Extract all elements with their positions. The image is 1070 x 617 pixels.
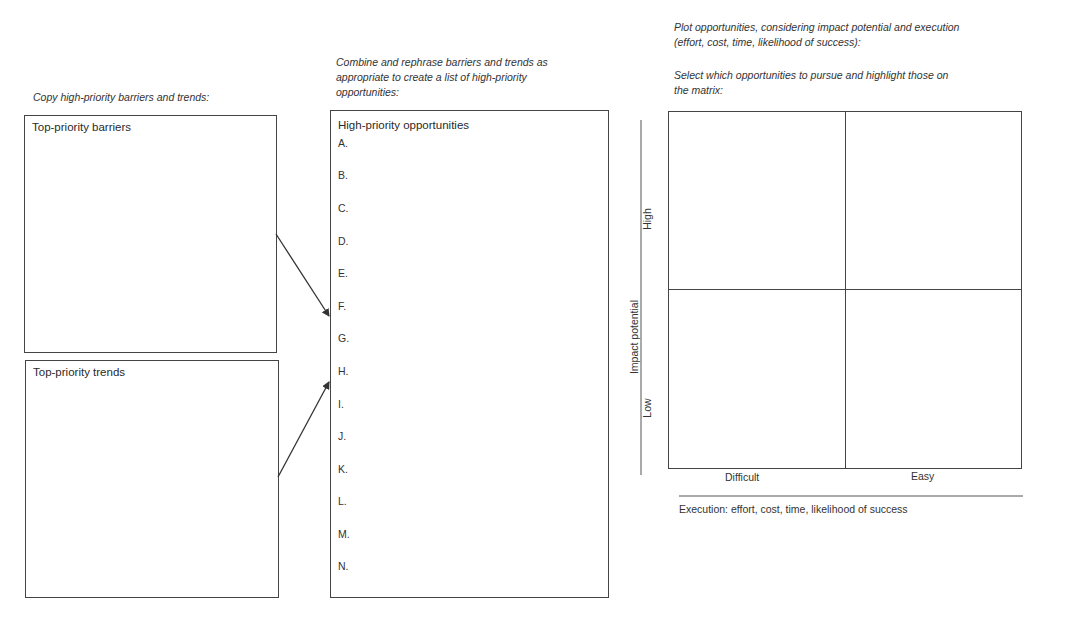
execution-easy-label: Easy bbox=[911, 470, 934, 482]
plot-instruction: Plot opportunities, considering impact p… bbox=[674, 20, 959, 50]
execution-axis-title: Execution: effort, cost, time, likelihoo… bbox=[679, 503, 908, 515]
select-instruction-line: Select which opportunities to pursue and… bbox=[674, 68, 948, 83]
matrix-horizontal-divider bbox=[669, 289, 1021, 290]
quadrant-high-difficult[interactable] bbox=[669, 112, 845, 289]
impact-high-label: High bbox=[641, 204, 653, 234]
execution-difficult-label: Difficult bbox=[725, 471, 759, 483]
impact-execution-matrix bbox=[668, 111, 1022, 469]
impact-low-label: Low bbox=[641, 393, 653, 423]
impact-potential-label: Impact potential bbox=[628, 297, 640, 377]
select-instruction-line: the matrix: bbox=[674, 83, 948, 98]
select-instruction: Select which opportunities to pursue and… bbox=[674, 68, 948, 98]
quadrant-high-easy[interactable] bbox=[846, 112, 1021, 289]
quadrant-low-difficult[interactable] bbox=[669, 290, 845, 468]
quadrant-low-easy[interactable] bbox=[846, 290, 1021, 468]
barriers-to-opportunities-arrow bbox=[276, 234, 329, 316]
plot-instruction-line: (effort, cost, time, likelihood of succe… bbox=[674, 35, 959, 50]
plot-instruction-line: Plot opportunities, considering impact p… bbox=[674, 20, 959, 35]
trends-to-opportunities-arrow bbox=[278, 382, 329, 477]
